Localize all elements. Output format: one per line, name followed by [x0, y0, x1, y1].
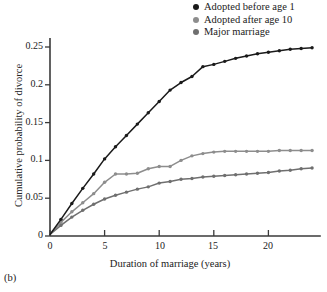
panel-label: (b)	[4, 272, 16, 283]
series-major-marriage	[50, 166, 314, 234]
x-axis-label: Duration of marriage (years)	[55, 258, 285, 269]
y-tick-label-005: 0.05	[13, 191, 43, 202]
x-tick-label-10: 10	[148, 240, 172, 251]
x-tick-label-0: 0	[38, 240, 62, 251]
figure-panel: Adopted before age 1 Adopted after age 1…	[0, 0, 327, 292]
x-tick-label-20: 20	[256, 240, 280, 251]
series-adopted-after-age-10	[50, 149, 314, 235]
y-axis-label: Cumulative probability of divorce	[13, 41, 24, 231]
y-tick-label-0: 0	[13, 229, 43, 240]
x-tick-label-5: 5	[93, 240, 117, 251]
x-tick-label-15: 15	[201, 240, 225, 251]
y-tick-label-025: 0.25	[13, 40, 43, 51]
y-tick-label-02: 0.2	[13, 78, 43, 89]
y-tick-label-015: 0.15	[13, 116, 43, 127]
y-tick-label-01: 0.1	[13, 153, 43, 164]
